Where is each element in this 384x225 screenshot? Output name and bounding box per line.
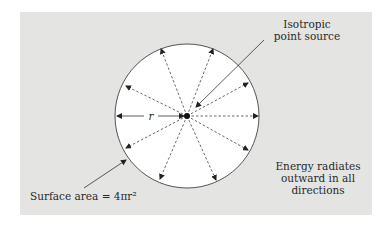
radius-label: r (145, 110, 157, 122)
energy-label-line1: Energy radiates (268, 160, 368, 172)
source-label-line1: Isotropic (262, 18, 352, 30)
point-source (184, 113, 190, 119)
energy-label-line2: outward in all (268, 172, 368, 184)
energy-label-line3: directions (268, 184, 368, 196)
energy-label: Energy radiates outward in all direction… (268, 160, 368, 196)
source-label-line2: point source (262, 30, 352, 42)
surface-area-label: Surface area = 4πr² (30, 190, 150, 202)
source-label: Isotropic point source (262, 18, 352, 42)
